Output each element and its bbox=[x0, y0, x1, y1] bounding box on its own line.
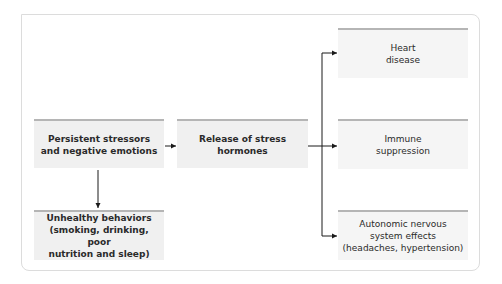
node-heart-disease: Heart disease bbox=[338, 28, 468, 78]
node-label: Persistent stressors and negative emotio… bbox=[41, 133, 158, 157]
node-unhealthy-behaviors: Unhealthy behaviors (smoking, drinking, … bbox=[34, 210, 164, 260]
node-persistent-stressors: Persistent stressors and negative emotio… bbox=[34, 119, 164, 168]
node-immune-suppression: Immune suppression bbox=[338, 119, 468, 169]
node-release-stress-hormones: Release of stress hormones bbox=[177, 119, 308, 168]
node-label: Autonomic nervous system effects (headac… bbox=[343, 218, 464, 254]
node-autonomic-effects: Autonomic nervous system effects (headac… bbox=[338, 210, 468, 260]
node-label: Release of stress hormones bbox=[199, 133, 286, 157]
node-label: Unhealthy behaviors (smoking, drinking, … bbox=[38, 212, 160, 260]
node-label: Heart disease bbox=[386, 42, 420, 66]
node-label: Immune suppression bbox=[376, 133, 430, 157]
